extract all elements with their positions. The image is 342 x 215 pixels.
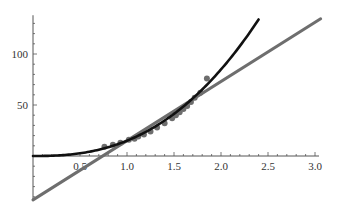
chart: 0.51.01.52.02.53.050100 — [0, 0, 342, 215]
x-tick-label: 1.5 — [167, 160, 181, 172]
y-tick-label: 100 — [12, 48, 29, 60]
data-point — [204, 75, 210, 81]
linear-fit-line — [33, 19, 321, 200]
x-tick-label: 2.0 — [214, 160, 228, 172]
x-tick-label: 3.0 — [308, 160, 322, 172]
data-points — [101, 75, 209, 149]
tick-labels: 0.51.01.52.02.53.050100 — [12, 48, 323, 172]
y-tick-label: 50 — [17, 99, 29, 111]
x-tick-label: 2.5 — [261, 160, 275, 172]
x-tick-label: 1.0 — [120, 160, 134, 172]
